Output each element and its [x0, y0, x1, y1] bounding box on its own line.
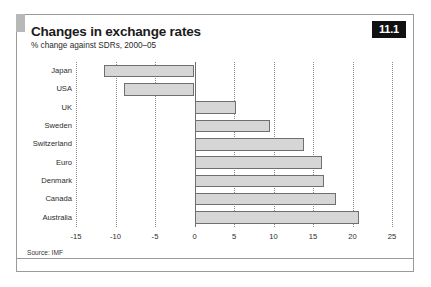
bar-row — [76, 209, 392, 227]
y-label-denmark: Denmark — [17, 172, 72, 190]
y-label-sweden: Sweden — [17, 117, 72, 135]
bar-row — [76, 99, 392, 117]
x-tick-25: 25 — [388, 232, 396, 241]
x-tick-0: 0 — [192, 232, 196, 241]
y-axis-category-labels: JapanUSAUKSwedenSwitzerlandEuroDenmarkCa… — [17, 62, 72, 227]
x-tick-5: 5 — [232, 232, 236, 241]
bar-sweden — [195, 120, 271, 133]
source-note: Source: IMF — [27, 249, 63, 256]
bar-australia — [195, 211, 359, 224]
x-tick-15: 15 — [309, 232, 317, 241]
bar-uk — [195, 101, 236, 114]
x-tick--5: -5 — [152, 232, 159, 241]
y-label-japan: Japan — [17, 62, 72, 80]
bar-canada — [195, 193, 336, 206]
x-tick-10: 10 — [269, 232, 277, 241]
y-label-australia: Australia — [17, 209, 72, 227]
bar-denmark — [195, 175, 325, 188]
source-divider — [17, 258, 413, 259]
frame-corner-tab — [16, 14, 25, 32]
x-tick--10: -10 — [110, 232, 121, 241]
x-axis-tick-labels: -15-10-50510152025 — [76, 232, 392, 246]
y-label-usa: USA — [17, 80, 72, 98]
y-label-uk: UK — [17, 99, 72, 117]
bar-row — [76, 154, 392, 172]
bar-row — [76, 190, 392, 208]
y-label-switzerland: Switzerland — [17, 135, 72, 153]
bar-row — [76, 117, 392, 135]
page-title: Changes in exchange rates — [31, 24, 341, 39]
y-label-euro: Euro — [17, 154, 72, 172]
bar-row — [76, 62, 392, 80]
x-tick--15: -15 — [71, 232, 82, 241]
bar-euro — [195, 156, 322, 169]
bar-switzerland — [195, 138, 305, 151]
bar-row — [76, 80, 392, 98]
bar-row — [76, 135, 392, 153]
bar-usa — [124, 83, 194, 96]
gridline-25 — [392, 62, 393, 227]
plot-area — [76, 62, 392, 227]
x-tick-20: 20 — [348, 232, 356, 241]
chart-header: Changes in exchange rates % change again… — [31, 24, 341, 51]
plot-wrapper: JapanUSAUKSwedenSwitzerlandEuroDenmarkCa… — [17, 60, 415, 250]
bar-row — [76, 172, 392, 190]
figure-frame: Changes in exchange rates % change again… — [16, 14, 414, 272]
chart-subtitle: % change against SDRs, 2000–05 — [31, 41, 341, 51]
bar-japan — [104, 65, 194, 78]
bar-series — [76, 62, 392, 227]
y-label-canada: Canada — [17, 190, 72, 208]
figure-number-badge: 11.1 — [372, 21, 406, 38]
